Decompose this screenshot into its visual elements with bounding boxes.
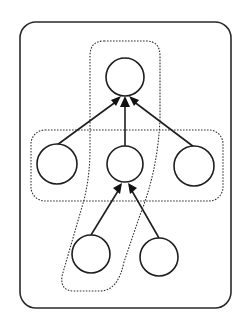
node-mid-right xyxy=(174,146,214,186)
node-leaf-right xyxy=(140,238,178,276)
edge-mid-left-to-root xyxy=(57,101,117,145)
edge-mid-right-to-root xyxy=(133,101,194,147)
node-leaf-left xyxy=(72,235,110,273)
edge-leaf-right-to-mid-center xyxy=(132,191,159,238)
arrowhead-icon xyxy=(120,96,130,107)
node-mid-center xyxy=(107,146,143,182)
node-mid-left xyxy=(37,144,77,184)
edge-leaf-left-to-mid-center xyxy=(91,191,118,235)
node-root xyxy=(106,58,144,96)
tree-diagram xyxy=(0,0,247,325)
